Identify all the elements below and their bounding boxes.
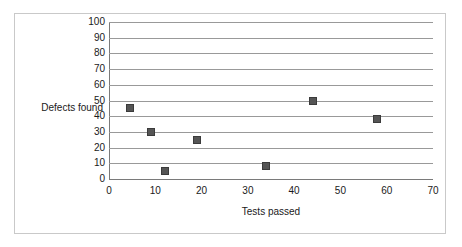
gridline-20 xyxy=(109,148,433,149)
chart-frame: Defects found 100 90 80 70 60 50 40 30 2… xyxy=(14,13,446,234)
chart-figure: Defects found 100 90 80 70 60 50 40 30 2… xyxy=(0,0,462,247)
gridline-40 xyxy=(109,116,433,117)
y-tick-label: 70 xyxy=(71,64,105,74)
gridline-70 xyxy=(109,69,433,70)
x-axis-tick-labels: 0 10 20 30 40 50 60 70 xyxy=(109,185,439,199)
y-tick-label: 20 xyxy=(71,143,105,153)
x-tick-label: 10 xyxy=(140,185,170,196)
data-point xyxy=(147,128,155,136)
y-tick-label: 90 xyxy=(71,33,105,43)
y-tick-label: 50 xyxy=(71,96,105,106)
y-tick-label: 0 xyxy=(71,174,105,184)
x-axis-title: Tests passed xyxy=(109,206,433,217)
y-tick-label: 60 xyxy=(71,80,105,90)
gridline-30 xyxy=(109,132,433,133)
gridline-80 xyxy=(109,53,433,54)
gridline-100 xyxy=(109,22,433,23)
x-tick-label: 30 xyxy=(233,185,263,196)
plot-area xyxy=(109,22,433,179)
y-tick-label: 10 xyxy=(71,158,105,168)
x-tick-label: 70 xyxy=(418,185,448,196)
gridline-50 xyxy=(109,101,433,102)
data-point xyxy=(373,115,381,123)
data-point xyxy=(126,104,134,112)
x-tick-label: 0 xyxy=(94,185,124,196)
y-tick-label: 30 xyxy=(71,127,105,137)
y-tick-label: 80 xyxy=(71,48,105,58)
gridline-60 xyxy=(109,85,433,86)
y-tick-label: 100 xyxy=(71,17,105,27)
data-point xyxy=(262,162,270,170)
x-tick-label: 50 xyxy=(325,185,355,196)
x-tick-label: 60 xyxy=(372,185,402,196)
y-tick-label: 40 xyxy=(71,111,105,121)
data-point xyxy=(193,136,201,144)
x-tick-label: 20 xyxy=(187,185,217,196)
gridline-90 xyxy=(109,38,433,39)
gridline-10 xyxy=(109,163,433,164)
data-point xyxy=(161,167,169,175)
data-point xyxy=(309,97,317,105)
y-axis-tick-labels: 100 90 80 70 60 50 40 30 20 10 0 xyxy=(67,22,105,179)
x-axis-line xyxy=(109,179,433,180)
x-tick-label: 40 xyxy=(279,185,309,196)
